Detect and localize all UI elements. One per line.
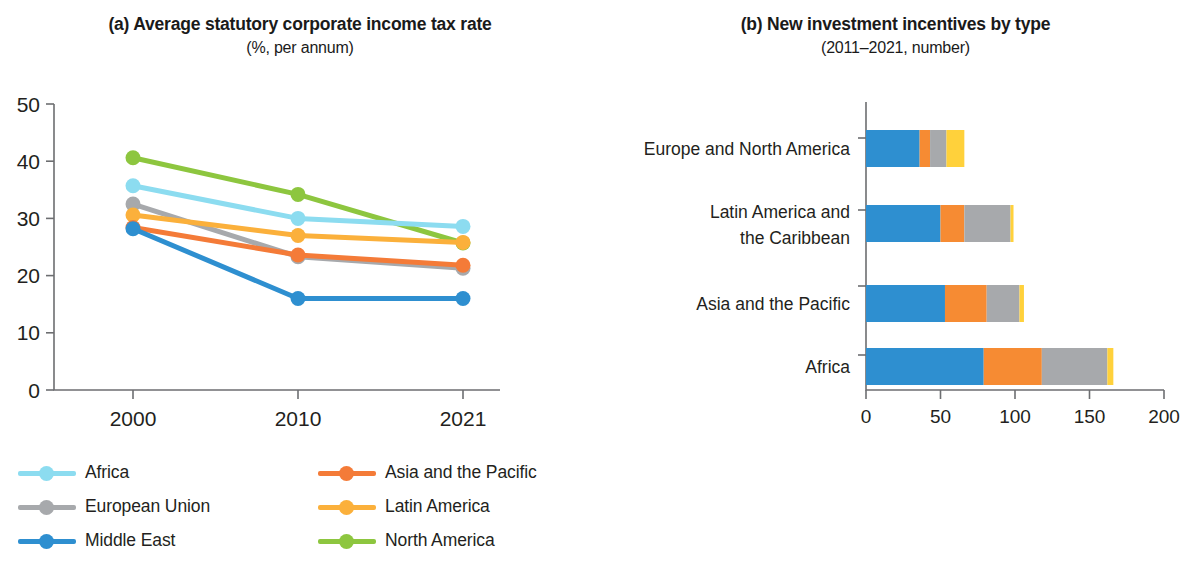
- x-axis-tick-label: 150: [1074, 406, 1106, 427]
- bar-segment: [1042, 348, 1108, 385]
- series-data-point: [456, 219, 471, 234]
- series-data-point: [126, 178, 141, 193]
- panel-b-bar-chart: (b) New investment incentives by type (2…: [600, 0, 1191, 562]
- legend-item[interactable]: European Union: [18, 496, 318, 517]
- stacked-bar: [866, 285, 1024, 322]
- category-label: Latin America and: [710, 202, 850, 222]
- category-label: Europe and North America: [644, 139, 850, 159]
- legend-item-label: North America: [385, 530, 495, 551]
- legend-dot: [39, 466, 54, 481]
- stacked-bar: [866, 205, 1014, 242]
- figure-root: (a) Average statutory corporate income t…: [0, 0, 1191, 562]
- legend-dot: [339, 534, 354, 549]
- bar-segment: [866, 205, 941, 242]
- legend-item[interactable]: Middle East: [18, 530, 318, 551]
- legend-dot: [39, 534, 54, 549]
- series-data-point: [291, 228, 306, 243]
- bar-segment: [1019, 285, 1023, 322]
- legend-line-marker-icon: [318, 464, 376, 482]
- stacked-bar: [866, 130, 964, 167]
- y-axis-tick-label: 0: [28, 379, 40, 402]
- legend-item[interactable]: Asia and the Pacific: [318, 462, 618, 483]
- category-label: Asia and the Pacific: [696, 294, 850, 314]
- x-axis-tick-label: 50: [930, 406, 951, 427]
- bar-segment: [1011, 205, 1014, 242]
- panel-b-title-block: (b) New investment incentives by type (2…: [600, 14, 1191, 57]
- bar-segment: [987, 285, 1020, 322]
- bar-segment: [920, 130, 930, 167]
- x-axis-tick-label: 100: [999, 406, 1031, 427]
- legend-line-marker-icon: [318, 498, 376, 516]
- line-chart-svg: 01020304050200020102021: [0, 90, 600, 420]
- legend-dot: [339, 500, 354, 515]
- series-data-point: [291, 187, 306, 202]
- bar-segment: [866, 285, 945, 322]
- panel-a-subtitle: (%, per annum): [0, 39, 600, 57]
- series-data-point: [456, 291, 471, 306]
- x-axis-tick-label: 2021: [440, 407, 487, 430]
- legend-item[interactable]: Latin America: [318, 496, 618, 517]
- y-axis-tick-label: 30: [17, 207, 40, 230]
- series-data-point: [291, 291, 306, 306]
- panel-b-title: (b) New investment incentives by type: [600, 14, 1191, 35]
- legend-item-label: Asia and the Pacific: [385, 462, 537, 483]
- bar-segment: [941, 205, 965, 242]
- bar-chart-svg: 050100150200Europe and North AmericaLati…: [600, 90, 1191, 430]
- legend-item-label: Africa: [85, 462, 129, 483]
- x-axis-tick-label: 200: [1148, 406, 1180, 427]
- x-axis-tick-label: 2010: [275, 407, 322, 430]
- category-label: Africa: [805, 357, 850, 377]
- legend-item-label: Latin America: [385, 496, 490, 517]
- panel-a-line-chart: (a) Average statutory corporate income t…: [0, 0, 600, 562]
- series-data-point: [126, 221, 141, 236]
- panel-b-plot-area: 050100150200Europe and North AmericaLati…: [600, 90, 1191, 430]
- panel-a-plot-area: 01020304050200020102021: [0, 90, 600, 420]
- legend-line-marker-icon: [18, 532, 76, 550]
- y-axis-tick-label: 40: [17, 150, 40, 173]
- category-label: the Caribbean: [740, 228, 850, 248]
- bar-segment: [945, 285, 987, 322]
- stacked-bar: [866, 348, 1113, 385]
- panel-a-title: (a) Average statutory corporate income t…: [0, 14, 600, 35]
- y-axis-tick-label: 50: [17, 93, 40, 116]
- panel-a-legend: AfricaAsia and the PacificEuropean Union…: [18, 462, 600, 551]
- legend-item-label: European Union: [85, 496, 210, 517]
- bar-segment: [984, 348, 1042, 385]
- bar-segment: [1107, 348, 1113, 385]
- y-axis-tick-label: 20: [17, 264, 40, 287]
- chart-axes: [54, 104, 500, 390]
- legend-item[interactable]: Africa: [18, 462, 318, 483]
- legend-line-marker-icon: [18, 464, 76, 482]
- legend-line-marker-icon: [318, 532, 376, 550]
- x-axis-tick-label: 2000: [110, 407, 157, 430]
- bar-segment: [946, 130, 964, 167]
- bar-segment: [866, 130, 920, 167]
- series-data-point: [126, 150, 141, 165]
- legend-item-label: Middle East: [85, 530, 175, 551]
- series-data-point: [456, 258, 471, 273]
- bar-segment: [866, 348, 984, 385]
- panel-b-subtitle: (2011–2021, number): [600, 39, 1191, 57]
- legend-line-marker-icon: [18, 498, 76, 516]
- legend-dot: [339, 466, 354, 481]
- series-data-point: [291, 248, 306, 263]
- legend-item[interactable]: North America: [318, 530, 618, 551]
- series-africa: [126, 178, 471, 234]
- series-data-point: [291, 211, 306, 226]
- y-axis-tick-label: 10: [17, 321, 40, 344]
- panel-a-title-block: (a) Average statutory corporate income t…: [0, 14, 600, 57]
- series-data-point: [456, 235, 471, 250]
- bar-segment: [964, 205, 1010, 242]
- legend-dot: [39, 500, 54, 515]
- x-axis-tick-label: 0: [861, 406, 872, 427]
- bar-segment: [930, 130, 946, 167]
